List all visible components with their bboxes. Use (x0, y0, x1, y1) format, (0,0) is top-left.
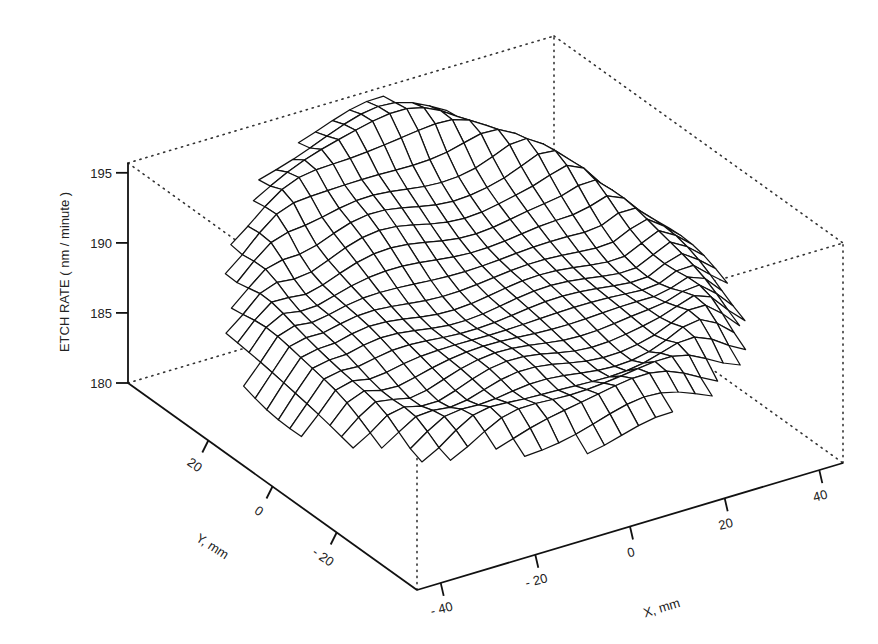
z-tick-label: 195 (90, 166, 112, 181)
y-axis-label: Y, mm (193, 530, 231, 562)
z-tick-label: 180 (90, 376, 112, 391)
x-tick-label: - 40 (429, 599, 454, 619)
x-tick-label: - 20 (524, 570, 549, 590)
y-tick-label: 20 (185, 455, 205, 476)
z-tick-label: 185 (90, 306, 112, 321)
wireframe-surface (225, 96, 745, 462)
z-tick-label: 190 (90, 236, 112, 251)
etch-rate-surface-plot: 180185190195- 40- 2002040200- 20 ETCH RA… (0, 0, 878, 644)
y-tick-label: - 20 (310, 544, 337, 569)
x-axis-label: X, mm (642, 595, 682, 620)
z-axis-label: ETCH RATE ( nm / minute ) (57, 192, 72, 352)
y-tick-label: 0 (252, 503, 267, 519)
x-tick-label: 0 (626, 544, 637, 560)
x-tick-label: 40 (811, 487, 829, 505)
x-tick-label: 20 (717, 515, 735, 533)
